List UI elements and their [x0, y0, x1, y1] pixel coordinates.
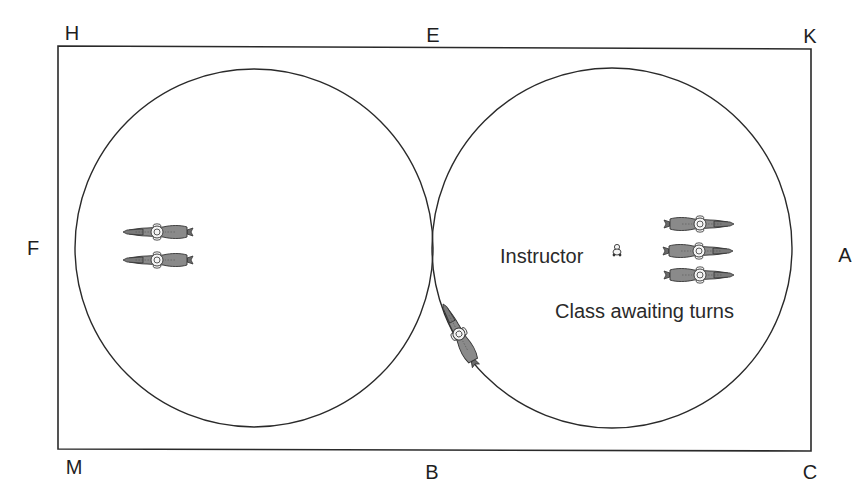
horse-rider-icon: [664, 267, 734, 283]
instructor-icon: [613, 244, 622, 256]
marker-f: F: [27, 238, 39, 258]
instructor-label: Instructor: [500, 245, 583, 267]
arena-diagram: H E K F A M B C Instructor Class awaitin…: [0, 0, 866, 504]
marker-h: H: [65, 23, 79, 43]
arena-drawing: [0, 0, 866, 504]
left-circle: [75, 69, 433, 427]
horse-rider-icon: [123, 252, 193, 268]
marker-c: C: [803, 462, 817, 482]
right-circle: [432, 68, 792, 428]
marker-k: K: [803, 26, 816, 46]
marker-e: E: [426, 25, 439, 45]
class-awaiting-turns-label: Class awaiting turns: [555, 300, 734, 322]
marker-a: A: [838, 245, 851, 265]
marker-m: M: [66, 457, 83, 477]
horse-rider-icon: [123, 224, 193, 240]
marker-b: B: [425, 462, 438, 482]
horse-rider-icon: [664, 216, 734, 232]
horse-rider-icon: [663, 243, 733, 259]
